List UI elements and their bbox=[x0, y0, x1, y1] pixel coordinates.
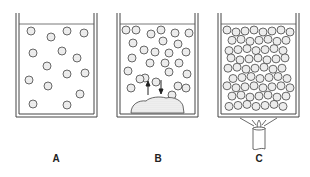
particle bbox=[225, 102, 233, 110]
particle bbox=[278, 64, 286, 72]
particle bbox=[29, 100, 37, 108]
particle bbox=[263, 56, 271, 64]
particle bbox=[224, 64, 232, 72]
particle bbox=[241, 83, 249, 91]
label-b: B bbox=[154, 153, 161, 164]
particle bbox=[182, 84, 190, 92]
particle bbox=[124, 67, 132, 75]
solute-particles bbox=[25, 27, 89, 109]
particle bbox=[268, 27, 276, 35]
particle bbox=[238, 74, 246, 82]
particle bbox=[73, 54, 81, 62]
particle bbox=[171, 29, 179, 37]
particle bbox=[58, 47, 66, 55]
particle bbox=[146, 59, 154, 67]
particle bbox=[281, 54, 289, 62]
particle bbox=[161, 59, 169, 67]
particle bbox=[183, 70, 191, 78]
particle bbox=[232, 28, 240, 36]
particle bbox=[223, 26, 231, 34]
particle bbox=[270, 100, 278, 108]
label-c: C bbox=[255, 153, 262, 164]
particle bbox=[255, 36, 263, 44]
particle bbox=[252, 47, 260, 55]
particle bbox=[122, 26, 130, 34]
particle bbox=[274, 73, 282, 81]
particle bbox=[245, 55, 253, 63]
particle bbox=[127, 84, 135, 92]
particle bbox=[250, 82, 258, 90]
particle bbox=[129, 39, 137, 47]
particle bbox=[283, 75, 291, 83]
particle bbox=[279, 102, 287, 110]
particle bbox=[165, 49, 173, 57]
particle bbox=[234, 101, 242, 109]
particle bbox=[44, 82, 52, 90]
particle bbox=[256, 75, 264, 83]
particle bbox=[132, 26, 140, 34]
particle bbox=[259, 28, 267, 36]
particle bbox=[174, 40, 182, 48]
particle bbox=[147, 30, 155, 38]
particle bbox=[185, 29, 193, 37]
particle bbox=[234, 46, 242, 54]
solution-diagram: A B C bbox=[0, 0, 310, 177]
particle bbox=[268, 83, 276, 91]
particle bbox=[182, 48, 190, 56]
particle bbox=[242, 65, 250, 73]
beaker-b bbox=[117, 13, 198, 117]
particle bbox=[264, 35, 272, 43]
particle bbox=[47, 33, 55, 41]
particle bbox=[254, 54, 262, 62]
particle bbox=[247, 73, 255, 81]
particle bbox=[246, 93, 254, 101]
particle bbox=[81, 69, 89, 77]
particle bbox=[225, 47, 233, 55]
particle bbox=[174, 82, 182, 90]
particle bbox=[43, 62, 51, 70]
particle bbox=[227, 54, 235, 62]
solute-particles bbox=[122, 26, 193, 99]
particle bbox=[223, 82, 231, 90]
particle bbox=[273, 37, 281, 45]
heat-rays bbox=[240, 118, 277, 126]
particle bbox=[277, 26, 285, 34]
beaker-a bbox=[16, 13, 97, 117]
particle bbox=[286, 28, 294, 36]
particle bbox=[140, 46, 148, 54]
particle bbox=[282, 92, 290, 100]
label-a: A bbox=[52, 153, 59, 164]
particle bbox=[243, 100, 251, 108]
particle bbox=[152, 78, 160, 86]
particle bbox=[228, 36, 236, 44]
particle bbox=[251, 64, 259, 72]
particle bbox=[63, 27, 71, 35]
particle bbox=[260, 63, 268, 71]
particle bbox=[228, 92, 236, 100]
undissolved-solid bbox=[131, 97, 184, 113]
particle bbox=[269, 65, 277, 73]
particle bbox=[243, 45, 251, 53]
burner bbox=[253, 127, 265, 150]
particle bbox=[236, 56, 244, 64]
particle bbox=[165, 68, 173, 76]
particle bbox=[265, 74, 273, 82]
particle bbox=[63, 101, 71, 109]
arrow-up-icon bbox=[146, 81, 150, 95]
particle bbox=[250, 26, 258, 34]
particle bbox=[175, 59, 183, 67]
particle bbox=[157, 26, 165, 34]
particle bbox=[232, 84, 240, 92]
particle bbox=[286, 84, 294, 92]
particle bbox=[151, 48, 159, 56]
particle bbox=[255, 92, 263, 100]
particle bbox=[237, 91, 245, 99]
particle bbox=[128, 54, 136, 62]
beaker-c bbox=[218, 13, 299, 150]
particle bbox=[229, 75, 237, 83]
particle bbox=[273, 93, 281, 101]
particle bbox=[282, 36, 290, 44]
particle bbox=[237, 35, 245, 43]
particle bbox=[272, 55, 280, 63]
particle bbox=[241, 27, 249, 35]
